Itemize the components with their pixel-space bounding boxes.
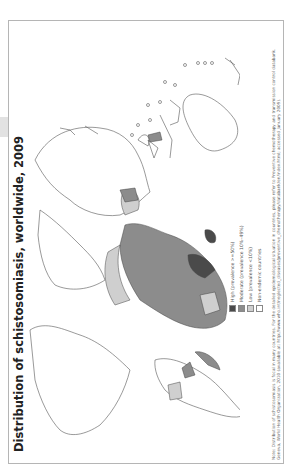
philippines-moderate <box>148 132 162 142</box>
south-america-moderate <box>182 362 195 378</box>
legend-label-non-endemic: Non-endemic countries <box>257 249 262 302</box>
legend-swatch-low <box>247 305 254 312</box>
legend-item-moderate: Moderate (prevalence 10%–49%) <box>237 202 245 312</box>
legend-swatch-high <box>229 305 236 312</box>
new-zealand-outline <box>225 58 240 85</box>
legend-item-non-endemic: Non-endemic countries <box>255 202 263 312</box>
australia-outline <box>183 94 238 151</box>
map-legend: High (prevalence >=50%) Moderate (preval… <box>228 202 264 312</box>
legend-label-high: High (prevalence >=50%) <box>230 242 235 302</box>
page-side-tab <box>0 117 8 137</box>
north-america-outline <box>30 326 130 435</box>
map-source-note: Note: Distribution of schistosomiasis is… <box>271 32 281 460</box>
legend-label-low: Low (prevalence <10%) <box>248 247 253 302</box>
europe-outline <box>38 210 105 289</box>
legend-item-high: High (prevalence >=50%) <box>228 202 236 312</box>
legend-label-moderate: Moderate (prevalence 10%–49%) <box>239 226 244 303</box>
brazil-moderate <box>195 352 220 370</box>
legend-swatch-moderate <box>238 305 245 312</box>
indonesia-outline <box>148 100 180 158</box>
legend-item-low: Low (prevalence <10%) <box>246 202 254 312</box>
legend-swatch-non-endemic <box>256 305 263 312</box>
south-america-low <box>168 382 182 400</box>
philippines-outline <box>138 135 149 146</box>
madagascar-high <box>205 230 216 243</box>
world-map <box>20 30 240 450</box>
south-america-outline <box>155 359 240 417</box>
